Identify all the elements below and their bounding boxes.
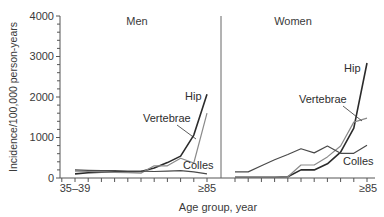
men-vertebrae-leader-line: [177, 125, 196, 139]
men-label-colles: Colles: [183, 159, 214, 171]
x-tick-label-men-last: ≥85: [198, 182, 216, 194]
panel-title-women: Women: [274, 15, 312, 27]
y-tick-label-1000: 1000: [30, 131, 54, 143]
y-tick-label-3000: 3000: [30, 50, 54, 62]
x-tick-label-women-last: ≥85: [359, 182, 377, 194]
women-label-colles: Colles: [343, 155, 374, 167]
women-label-hip: Hip: [344, 62, 361, 74]
x-axis-label: Age group, year: [179, 201, 258, 213]
women-vertebrae-leader-line: [343, 106, 362, 121]
y-axis: 4000 3000 2000 1000 0 Incidence/100,000 …: [7, 10, 60, 184]
x-axis: 35–39 ≥85 ≥85 Age group, year: [60, 178, 377, 213]
y-axis-ticks: [56, 16, 60, 178]
y-tick-label-0: 0: [48, 172, 54, 184]
y-tick-label-4000: 4000: [30, 10, 54, 22]
men-label-vertebrae: Vertebrae: [143, 112, 191, 124]
x-tick-label-men-first: 35–39: [60, 182, 91, 194]
women-label-vertebrae: Vertebrae: [299, 93, 347, 105]
fracture-incidence-chart: 4000 3000 2000 1000 0 Incidence/100,000 …: [0, 0, 384, 217]
panel-title-men: Men: [126, 15, 147, 27]
men-label-hip: Hip: [185, 90, 202, 102]
y-axis-label: Incidence/100,000 person-years: [7, 22, 19, 172]
y-tick-label-2000: 2000: [30, 91, 54, 103]
